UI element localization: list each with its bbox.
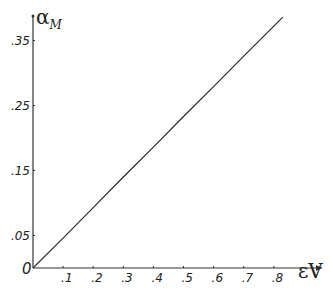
- y-tick-label: .15: [11, 164, 30, 178]
- axis-labels: αM εV 0: [22, 5, 323, 283]
- x-tick-label: .8: [272, 271, 284, 285]
- y-tick-label: .25: [11, 99, 30, 113]
- ticks: .1.2.3.4.5.6.7.8.05.15.25.35: [11, 34, 284, 286]
- data-series: [33, 17, 283, 268]
- x-axis-label: εV: [298, 259, 323, 283]
- y-tick-label: .05: [11, 229, 30, 243]
- x-tick-label: .1: [61, 271, 72, 285]
- line-chart: .1.2.3.4.5.6.7.8.05.15.25.35 αM εV 0: [0, 0, 333, 297]
- origin-label: 0: [22, 260, 32, 278]
- x-tick-label: .7: [242, 271, 254, 285]
- y-tick-label: .35: [11, 34, 30, 48]
- x-tick-label: .6: [212, 271, 224, 285]
- data-line: [33, 17, 283, 268]
- axes: [32, 15, 323, 272]
- x-tick-label: .5: [182, 271, 193, 285]
- x-tick-label: .3: [121, 271, 132, 285]
- x-tick-label: .2: [91, 271, 102, 285]
- x-tick-label: .4: [151, 271, 162, 285]
- y-axis-label: αM: [36, 5, 63, 32]
